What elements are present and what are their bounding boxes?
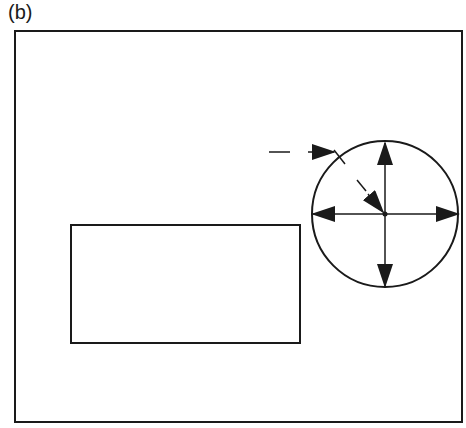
diagram-canvas <box>0 0 466 428</box>
center-point <box>383 212 388 217</box>
inner-rectangle <box>71 225 300 343</box>
